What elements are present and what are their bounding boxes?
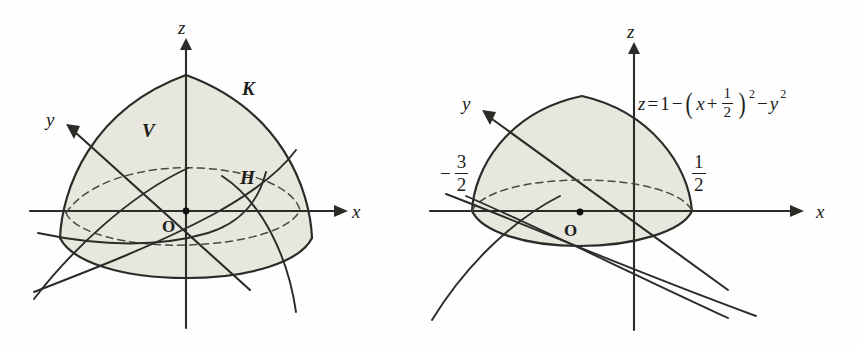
right-x-axis-arrow <box>790 205 804 217</box>
equation-fraction-numerator: 1 <box>722 86 734 104</box>
right-y-axis-label: y <box>462 94 470 113</box>
x-tick-negative-three-halves: − 3 2 <box>440 152 470 195</box>
equation-plus: + <box>707 94 718 113</box>
right-z-axis-label: z <box>627 22 634 41</box>
right-panel-graphic <box>0 0 861 346</box>
equation-y-exponent: 2 <box>780 88 786 100</box>
equation-lhs: z <box>638 94 645 113</box>
tick-numerator: 3 <box>455 152 469 174</box>
equation-y-term: y <box>770 94 778 113</box>
equation-minus-2: − <box>757 94 768 113</box>
equation-x-term: x <box>696 94 704 113</box>
equation-equals: = <box>647 94 658 113</box>
tick-minus-sign: − <box>440 164 452 183</box>
tick-numerator: 1 <box>692 152 706 174</box>
figure-root: x y z K V H O <box>0 0 861 346</box>
tick-fraction: 3 2 <box>455 152 469 195</box>
equation-one: 1 <box>660 94 670 113</box>
right-y-axis-arrow <box>482 110 496 125</box>
right-x-axis-label: x <box>816 202 824 221</box>
equation-paren-open: ( <box>686 91 693 115</box>
equation-paren-close: ) <box>738 91 745 115</box>
equation-fraction-denominator: 2 <box>722 104 734 121</box>
tick-fraction: 1 2 <box>692 152 706 195</box>
equation-fraction: 1 2 <box>722 86 734 121</box>
right-origin-label: O <box>564 222 577 239</box>
surface-equation: z = 1 − ( x + 1 2 ) 2 − y 2 <box>638 86 786 121</box>
right-origin-dot <box>577 209 584 216</box>
x-tick-one-half: 1 2 <box>690 152 708 195</box>
tick-denominator: 2 <box>455 174 469 195</box>
equation-exponent: 2 <box>749 88 755 100</box>
equation-minus-1: − <box>672 94 683 113</box>
tick-denominator: 2 <box>692 174 706 195</box>
right-z-axis-arrow <box>628 42 640 54</box>
